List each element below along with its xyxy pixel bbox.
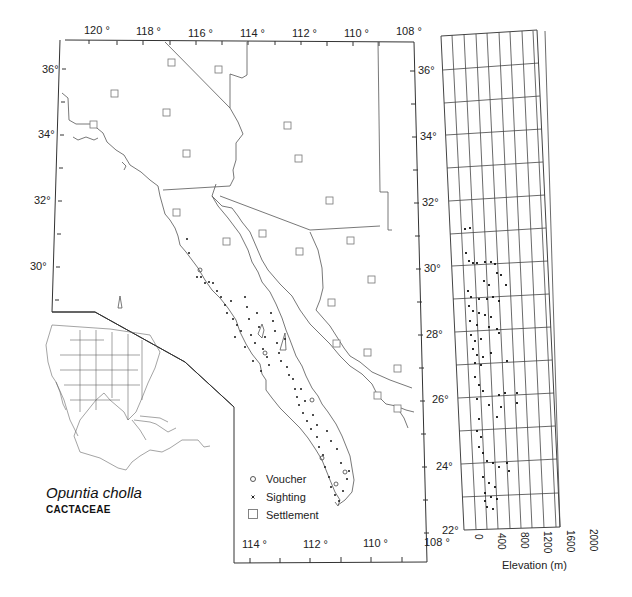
lat-label-left-36: 36° xyxy=(42,63,59,75)
lon-label-top-114: 114 ° xyxy=(240,27,265,39)
lon-label-top-120: 120 ° xyxy=(84,24,110,36)
species-family: CACTACEAE xyxy=(46,504,111,515)
legend-label-settlement: Settlement xyxy=(266,509,319,521)
lat-label-left-30: 30° xyxy=(30,260,47,272)
lon-label-top-110: 110 ° xyxy=(344,27,369,39)
voucher-markers xyxy=(198,268,347,486)
legend-label-sighting: Sighting xyxy=(266,491,306,503)
legend-item-voucher: Voucher xyxy=(246,470,319,488)
inset-north-america-map xyxy=(46,325,210,470)
elevation-tick-800: 800 xyxy=(519,532,530,549)
lon-label-bottom-112: 112 ° xyxy=(303,538,328,550)
lon-label-top-118: 118 ° xyxy=(136,25,161,37)
elevation-grid xyxy=(441,30,560,530)
elevation-tick-0: 0 xyxy=(473,534,484,540)
lat-label-right-26: 26° xyxy=(432,393,449,405)
lat-label-right-24: 24° xyxy=(436,460,453,472)
map-legend: Voucher Sighting Settlement xyxy=(246,470,319,524)
legend-item-settlement: Settlement xyxy=(246,506,319,524)
settlement-square-icon xyxy=(246,508,260,522)
lat-label-left-32: 32° xyxy=(34,194,51,206)
lat-label-right-34: 34° xyxy=(420,130,437,142)
sighting-markers xyxy=(186,238,350,502)
elevation-tick-2000: 2000 xyxy=(588,529,599,551)
lon-label-top-108: 108 ° xyxy=(396,25,422,37)
lat-label-right-30: 30° xyxy=(424,262,441,274)
lon-label-bottom-110: 110 ° xyxy=(363,537,388,549)
voucher-circle-icon xyxy=(246,473,260,485)
lat-label-right-32: 32° xyxy=(422,196,439,208)
lon-label-top-112: 112 ° xyxy=(292,27,317,39)
elevation-tick-1200: 1200 xyxy=(542,531,553,553)
species-name: Opuntia cholla xyxy=(46,484,142,501)
elevation-tick-1600: 1600 xyxy=(565,530,576,552)
inset-divider xyxy=(52,312,234,407)
elevation-tick-400: 400 xyxy=(496,533,507,550)
lat-label-left-34: 34° xyxy=(38,128,55,140)
lat-label-right-22: 22° xyxy=(442,524,459,536)
lon-label-top-116: 116 ° xyxy=(188,27,213,39)
coastlines-and-borders xyxy=(62,42,414,506)
lat-label-right-28: 28° xyxy=(426,328,443,340)
lon-label-bottom-114: 114 ° xyxy=(242,538,267,550)
legend-item-sighting: Sighting xyxy=(246,488,319,506)
sighting-cross-icon xyxy=(246,491,260,503)
elevation-axis-label: Elevation (m) xyxy=(502,559,567,571)
legend-label-voucher: Voucher xyxy=(266,473,306,485)
lat-label-right-36: 36° xyxy=(418,64,435,76)
lon-label-bottom-108: 108 ° xyxy=(424,536,450,548)
